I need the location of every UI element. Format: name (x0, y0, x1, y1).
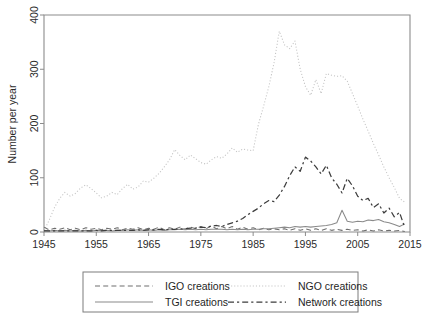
legend-label-igo: IGO creations (165, 280, 230, 292)
x-tick-label: 2015 (398, 238, 422, 250)
y-axis-tick-labels: 0100200300400 (28, 6, 40, 235)
series-group (44, 31, 405, 231)
chart-page: 0100200300400 19451955196519751985199520… (0, 0, 427, 321)
legend-label-ngo: NGO creations (298, 280, 367, 292)
y-tick-label: 200 (28, 115, 40, 133)
y-tick-label: 400 (28, 6, 40, 24)
legend: IGO creationsNGO creationsTGI creationsN… (83, 272, 382, 312)
x-axis-ticks (44, 232, 410, 236)
y-tick-label: 0 (28, 229, 40, 235)
y-axis-ticks (40, 15, 44, 232)
y-axis-title: Number per year (6, 84, 18, 163)
x-axis-tick-labels: 19451955196519751985199520052015 (32, 238, 422, 250)
y-tick-label: 100 (28, 169, 40, 187)
x-tick-label: 1965 (137, 238, 161, 250)
x-tick-label: 1945 (32, 238, 56, 250)
x-tick-label: 1985 (241, 238, 265, 250)
series-line-network (44, 157, 405, 231)
y-tick-label: 300 (28, 60, 40, 78)
x-tick-label: 1955 (85, 238, 109, 250)
legend-label-network: Network creations (298, 296, 382, 308)
x-tick-label: 1995 (294, 238, 318, 250)
x-tick-label: 1975 (189, 238, 213, 250)
series-line-ngo (44, 31, 405, 231)
legend-label-tgi: TGI creations (165, 296, 228, 308)
line-chart: 0100200300400 19451955196519751985199520… (0, 0, 427, 321)
plot-frame (44, 15, 410, 232)
x-tick-label: 2005 (346, 238, 370, 250)
